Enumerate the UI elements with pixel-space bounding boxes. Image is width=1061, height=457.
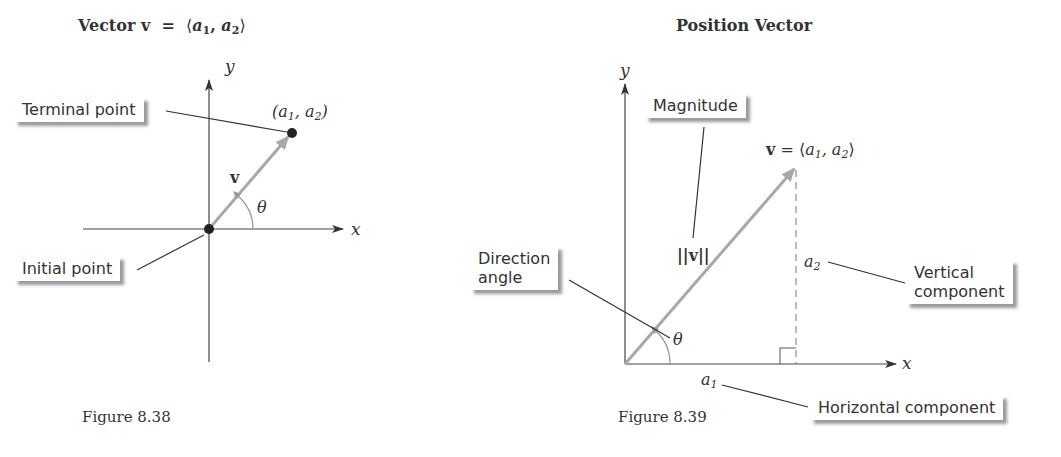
- vertical-line2: component: [914, 282, 1005, 301]
- a2-sub: 2: [814, 260, 821, 273]
- eq-v: v: [766, 140, 775, 159]
- vector-equation: v = ⟨a1, a2⟩: [766, 140, 855, 161]
- a1-label: a1: [701, 370, 718, 391]
- eq-sign: = ⟨: [775, 140, 805, 159]
- figure-caption-1: Figure 8.38: [82, 408, 171, 426]
- angle-arc: [238, 196, 253, 229]
- coord-sub1: 1: [288, 110, 295, 123]
- y-axis-label: y: [225, 56, 235, 76]
- vertical-leader: [828, 262, 905, 283]
- a2-label: a2: [804, 252, 821, 273]
- x-axis-label-2: x: [902, 353, 912, 373]
- right-angle-marker: [780, 348, 796, 364]
- eq-a1: a: [805, 140, 815, 159]
- coord-comma: ,: [295, 102, 305, 121]
- terminal-leader-line: [166, 111, 287, 132]
- vertical-component-callout: Vertical component: [906, 260, 1013, 304]
- paren-close: ): [322, 102, 328, 121]
- eq-a2: a: [832, 140, 842, 159]
- position-vector: [625, 169, 794, 364]
- initial-leader-line: [137, 235, 204, 270]
- direction-leader: [569, 280, 670, 338]
- a1-a: a: [701, 370, 711, 389]
- vector-v: [209, 137, 288, 229]
- magnitude-callout: Magnitude: [645, 93, 746, 118]
- figure-caption-2: Figure 8.39: [618, 408, 707, 426]
- direction-line2: angle: [478, 268, 550, 287]
- magnitude-symbol: ||v||: [677, 246, 710, 265]
- coord-sub2: 2: [315, 110, 322, 123]
- terminal-point-coords: (a1, a2): [272, 102, 328, 123]
- terminal-point-dot: [287, 128, 297, 138]
- coord-a2: a: [305, 102, 315, 121]
- norm-v: ||v||: [677, 246, 710, 265]
- x-axis-label: x: [351, 219, 361, 239]
- a2-a: a: [804, 252, 814, 271]
- vertical-line1: Vertical: [914, 263, 1005, 282]
- eq-sub1: 1: [815, 148, 822, 161]
- terminal-point-callout: Terminal point: [14, 97, 144, 122]
- theta-label: θ: [257, 198, 267, 217]
- figure-1-graphic: [0, 0, 1061, 457]
- eq-comma: ,: [822, 140, 832, 159]
- direction-line1: Direction: [478, 249, 550, 268]
- angle-arc-2: [656, 331, 670, 364]
- vector-v-label: v: [230, 168, 239, 187]
- theta-label-2: θ: [673, 330, 683, 349]
- figure-2-title: Position Vector: [676, 16, 812, 35]
- y-axis-label-2: y: [620, 60, 630, 80]
- horizontal-leader: [722, 385, 808, 407]
- coord-a1: a: [278, 102, 288, 121]
- initial-point-callout: Initial point: [14, 256, 120, 281]
- magnitude-leader: [693, 127, 704, 238]
- initial-point-dot: [204, 224, 214, 234]
- a1-sub: 1: [711, 378, 718, 391]
- horizontal-component-callout: Horizontal component: [810, 395, 1003, 420]
- eq-close: ⟩: [848, 140, 854, 159]
- direction-angle-callout: Direction angle: [470, 246, 558, 290]
